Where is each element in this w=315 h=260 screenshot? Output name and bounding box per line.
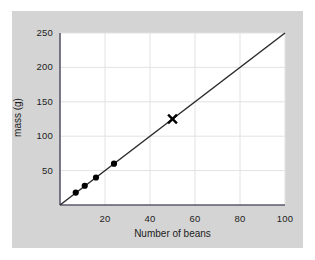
x-tick-label: 80 [225,213,255,224]
chart-figure: 50100150200250 20406080100 Number of bea… [0,0,315,260]
x-tick-label: 100 [270,213,300,224]
x-tick-label: 40 [135,213,165,224]
x-axis-title: Number of beans [60,228,285,239]
predicted-point-marker [168,115,177,124]
y-axis-title: mass (g) [12,83,23,153]
y-tick-label: 200 [27,61,53,72]
y-tick-label: 150 [27,96,53,107]
y-tick-label: 50 [27,165,53,176]
y-tick-label: 250 [27,27,53,38]
x-tick-label: 20 [90,213,120,224]
x-tick-label: 60 [180,213,210,224]
y-tick-label: 100 [27,130,53,141]
